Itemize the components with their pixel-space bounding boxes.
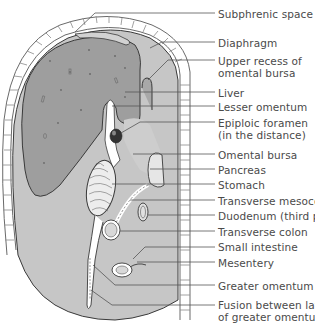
label-mesentery: Mesentery bbox=[218, 257, 274, 269]
label-lesser-omentum: Lesser omentum bbox=[218, 101, 307, 113]
label-liver: Liver bbox=[218, 87, 244, 99]
label-subphrenic-space: Subphrenic space bbox=[218, 8, 313, 20]
label-diaphragm: Diaphragm bbox=[218, 37, 277, 49]
small-intestine bbox=[112, 263, 132, 277]
label-greater-omentum: Greater omentum bbox=[218, 280, 314, 292]
epiploic-foramen bbox=[110, 129, 122, 143]
label-transverse-colon: Transverse colon bbox=[218, 226, 308, 238]
label-epiploic-foramen: Epiploic foramen(in the distance) bbox=[218, 117, 308, 141]
label-omental-bursa: Omental bursa bbox=[218, 149, 297, 161]
label-stomach: Stomach bbox=[218, 179, 265, 191]
label-upper-recess: Upper recess ofomental bursa bbox=[218, 55, 302, 79]
label-duodenum: Duodenum (third part) bbox=[218, 210, 315, 222]
label-pancreas: Pancreas bbox=[218, 164, 266, 176]
transverse-colon bbox=[102, 220, 120, 240]
label-fusion: Fusion between layersof greater omentum bbox=[218, 299, 315, 323]
label-transverse-mesocolon: Transverse mesocolon bbox=[218, 195, 315, 207]
pancreas bbox=[148, 153, 164, 187]
label-small-intestine: Small intestine bbox=[218, 241, 298, 253]
